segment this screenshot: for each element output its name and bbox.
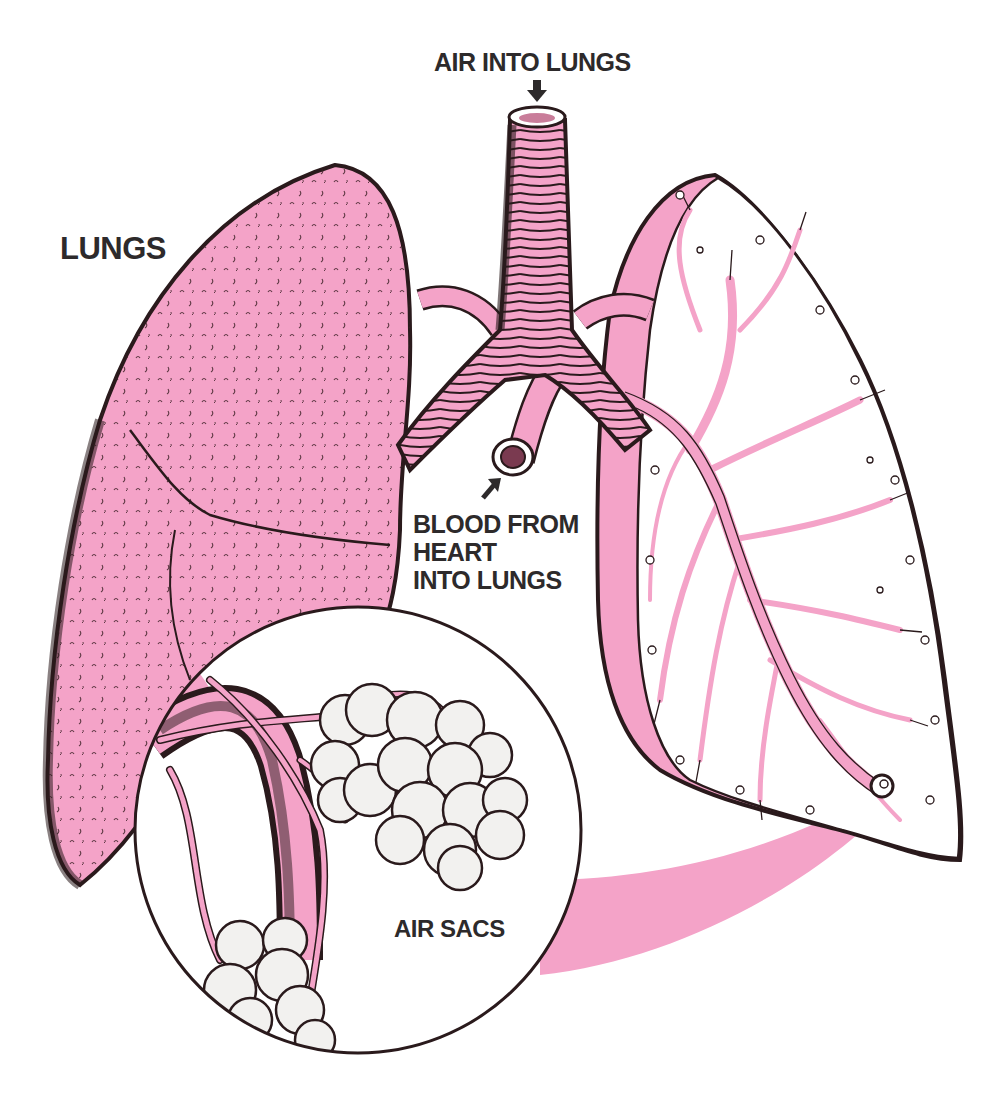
- lungs-diagram: LUNGS AIR INTO LUNGS BLOOD FROM HEART IN…: [0, 0, 1008, 1099]
- right-lung-cross-section: [597, 175, 961, 860]
- label-blood-from-heart: BLOOD FROM HEART INTO LUNGS: [413, 510, 579, 594]
- label-lungs: LUNGS: [60, 232, 166, 267]
- arrow-air-into-lungs: [527, 80, 547, 102]
- label-line: BLOOD FROM: [413, 510, 579, 538]
- label-line: INTO LUNGS: [413, 566, 579, 594]
- arrow-blood-into-lungs: [483, 478, 501, 498]
- label-line: HEART: [413, 538, 579, 566]
- label-air-sacs: AIR SACS: [394, 916, 505, 943]
- label-air-into-lungs: AIR INTO LUNGS: [434, 48, 631, 76]
- highlighted-air-sac: [871, 775, 893, 797]
